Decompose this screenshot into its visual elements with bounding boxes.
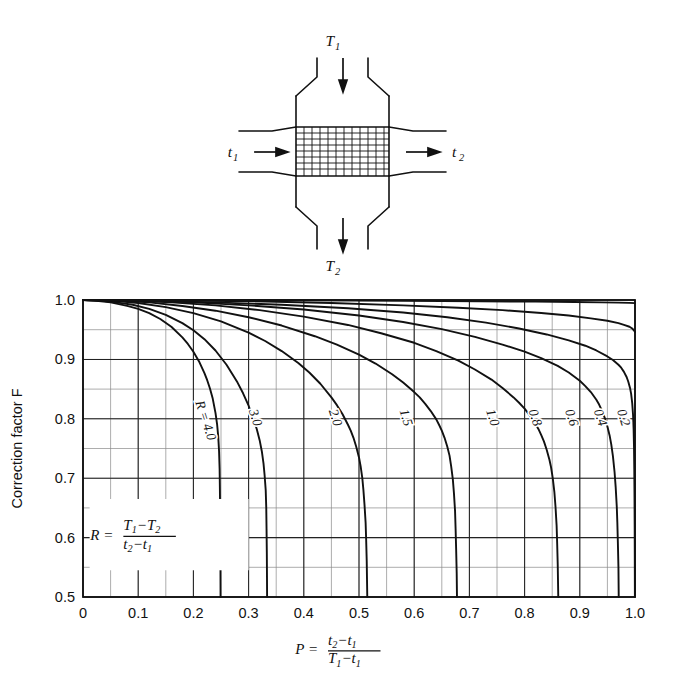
- svg-text:1.5: 1.5: [397, 407, 417, 428]
- arrow-cold-out-head: [428, 148, 440, 156]
- x-tick-label: 0: [79, 605, 87, 621]
- tube-matrix-hatching: [296, 127, 389, 176]
- label-t1-sub: 1: [233, 152, 238, 163]
- r-annotation-backing: [90, 499, 249, 570]
- label-T1-main: T: [325, 32, 335, 49]
- x-tick-label: 0.8: [515, 605, 535, 621]
- svg-text:t2−t1: t2−t1: [328, 632, 357, 650]
- x-axis-label: P =t2−t1T1−t1: [294, 632, 380, 669]
- svg-text:T1−T2: T1−T2: [123, 517, 160, 535]
- x-tick-label: 0.9: [570, 605, 590, 621]
- y-tick-label: 0.7: [55, 470, 75, 486]
- y-tick-label: 0.8: [55, 411, 75, 427]
- curve-label: 2.02.0: [326, 407, 346, 428]
- x-tick-label: 0.1: [128, 605, 148, 621]
- curve-label: 0.80.8: [526, 407, 546, 428]
- nozzle-top-left: [296, 58, 317, 96]
- nozzle-bottom-left: [296, 207, 317, 249]
- svg-text:Correction factor F: Correction factor F: [9, 388, 25, 508]
- nozzle-right-lower: [389, 172, 446, 176]
- x-tick-label: 0.7: [459, 605, 479, 621]
- svg-text:R =: R =: [89, 527, 113, 543]
- svg-text:T1−t1: T1−t1: [328, 650, 361, 668]
- curve-label: 1.01.0: [483, 407, 503, 428]
- svg-text:0.8: 0.8: [526, 407, 546, 428]
- label-t1-main: t: [228, 143, 233, 160]
- label-t2-sub: 2: [459, 152, 465, 163]
- nozzle-bottom-right: [368, 207, 389, 249]
- nozzle-left-lower: [239, 172, 296, 176]
- arrow-hot-out-head: [339, 240, 347, 252]
- correction-factor-chart: R = 4.0R = 4.03.03.02.02.01.51.51.01.00.…: [0, 288, 686, 673]
- curve-label: 0.60.6: [562, 407, 582, 428]
- svg-text:R = 4.0: R = 4.0: [192, 398, 219, 443]
- x-tick-label: 0.4: [294, 605, 314, 621]
- figure-root: T 1 T 2 t 1 t 2 R = 4.0R = 4.03.03.02.02…: [0, 0, 686, 673]
- arrow-cold-in-head: [276, 148, 288, 156]
- svg-text:0.2: 0.2: [614, 407, 634, 428]
- x-tick-label: 1.0: [625, 605, 645, 621]
- y-tick-label: 0.6: [55, 530, 75, 546]
- label-T2-sub: 2: [335, 266, 341, 277]
- x-tick-label: 0.2: [183, 605, 203, 621]
- x-tick-label: 0.3: [239, 605, 259, 621]
- y-axis-label: Correction factor F: [9, 388, 25, 508]
- label-T1-sub: 1: [335, 41, 340, 52]
- label-T2-main: T: [325, 257, 335, 274]
- chart-svg: R = 4.0R = 4.03.03.02.02.01.51.51.01.00.…: [0, 288, 686, 673]
- flow-arrows: [254, 58, 440, 252]
- x-tick-label: 0.5: [349, 605, 369, 621]
- curve-label: R = 4.0R = 4.0: [192, 398, 219, 443]
- nozzle-left-upper: [239, 127, 296, 131]
- nozzle-right-upper: [389, 127, 446, 131]
- curve-label: 1.51.5: [397, 407, 417, 428]
- arrow-hot-in-head: [339, 80, 347, 92]
- y-tick-label: 1.0: [55, 292, 75, 308]
- svg-text:2.0: 2.0: [326, 407, 346, 428]
- label-t2-main: t: [452, 143, 457, 160]
- nozzle-top-right: [368, 58, 389, 96]
- y-tick-label: 0.9: [55, 351, 75, 367]
- x-tick-label: 0.6: [404, 605, 424, 621]
- crossflow-heat-exchanger-schematic: T 1 T 2 t 1 t 2: [0, 0, 686, 290]
- svg-text:1.0: 1.0: [483, 407, 503, 428]
- schematic-svg: T 1 T 2 t 1 t 2: [0, 0, 686, 290]
- svg-text:P =: P =: [294, 641, 318, 657]
- y-tick-label: 0.5: [55, 589, 75, 605]
- curve-label: 0.20.2: [614, 407, 634, 428]
- svg-text:0.6: 0.6: [562, 407, 582, 428]
